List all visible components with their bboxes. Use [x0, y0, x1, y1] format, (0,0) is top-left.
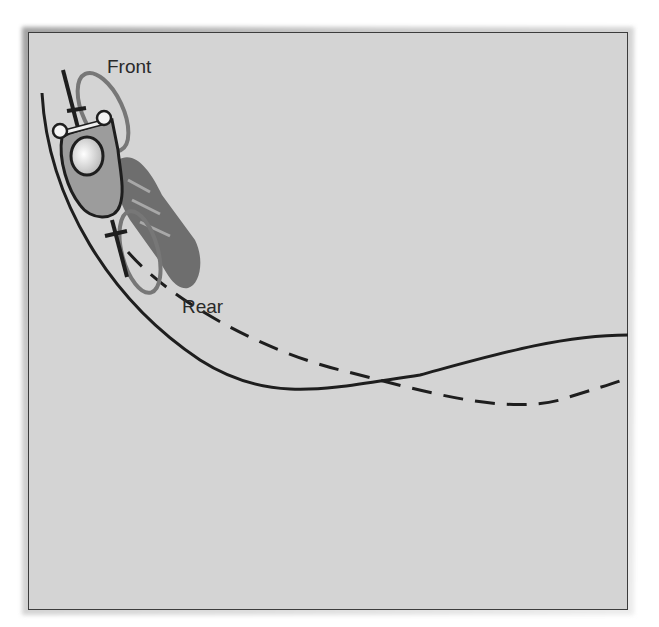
rider-head-icon: [71, 137, 103, 175]
front-label: Front: [107, 56, 151, 78]
bicycle-track-diagram: [0, 0, 659, 627]
left-hand-icon: [53, 124, 67, 138]
rear-frame-icon: [105, 220, 127, 277]
rear-label: Rear: [182, 296, 223, 318]
right-hand-icon: [97, 111, 111, 125]
